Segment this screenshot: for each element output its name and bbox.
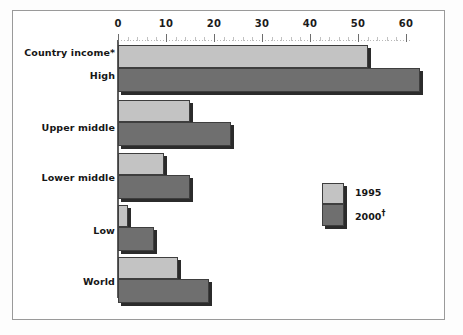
x-minor-tick xyxy=(195,37,196,41)
bar-lower-middle-1995 xyxy=(118,153,164,175)
dagger-marker: † xyxy=(381,209,385,218)
x-minor-tick xyxy=(291,37,292,41)
legend-swatch-1995 xyxy=(322,183,344,204)
x-minor-tick xyxy=(300,37,301,41)
x-minor-tick xyxy=(204,37,205,41)
bar-world-2000 xyxy=(118,279,209,303)
x-minor-tick xyxy=(233,37,234,41)
x-ticklabel-10: 10 xyxy=(159,18,173,29)
x-minor-tick xyxy=(329,37,330,41)
x-ticklabel-20: 20 xyxy=(207,18,221,29)
x-minor-tick xyxy=(176,37,177,41)
bar-high-2000 xyxy=(118,68,420,92)
plot-area: 0 10 20 30 40 50 60 xyxy=(0,0,463,335)
x-ticklabel-50: 50 xyxy=(351,18,365,29)
chart-figure: 0 10 20 30 40 50 60 xyxy=(0,0,463,335)
x-ticklabel-0: 0 xyxy=(114,18,121,29)
x-tick-40 xyxy=(310,34,311,42)
x-minor-tick xyxy=(281,37,282,41)
x-tick-0 xyxy=(118,34,119,42)
x-minor-tick xyxy=(128,37,129,41)
legend-label-2000: 2000† xyxy=(355,209,385,222)
y-category-label-lower-middle: Lower middle xyxy=(42,172,115,183)
x-minor-tick xyxy=(377,37,378,41)
x-minor-tick xyxy=(147,37,148,41)
bar-low-1995 xyxy=(118,205,128,227)
axis-group-header: Country income* xyxy=(24,47,115,58)
y-category-label-low: Low xyxy=(93,225,115,236)
y-category-label-world: World xyxy=(83,276,115,287)
x-minor-tick xyxy=(272,37,273,41)
bar-low-2000 xyxy=(118,227,154,251)
legend-swatch-2000 xyxy=(322,204,344,226)
x-tick-60 xyxy=(406,34,407,42)
bar-lower-middle-2000 xyxy=(118,175,190,199)
x-minor-tick xyxy=(339,37,340,41)
y-category-label-upper-middle: Upper middle xyxy=(42,122,115,133)
x-ticklabel-30: 30 xyxy=(255,18,269,29)
bar-high-1995 xyxy=(118,45,368,68)
x-minor-tick xyxy=(224,37,225,41)
x-minor-tick xyxy=(396,37,397,41)
x-tick-10 xyxy=(166,34,167,42)
x-axis-rule xyxy=(118,40,410,41)
x-minor-tick xyxy=(387,37,388,41)
bar-upper-middle-1995 xyxy=(118,100,190,122)
x-minor-tick xyxy=(137,37,138,41)
y-category-label-high: High xyxy=(90,70,115,81)
x-tick-20 xyxy=(214,34,215,42)
legend-label-1995: 1995 xyxy=(355,187,381,198)
x-minor-tick xyxy=(252,37,253,41)
x-minor-tick xyxy=(156,37,157,41)
x-ticklabel-60: 60 xyxy=(399,18,413,29)
x-minor-tick xyxy=(348,37,349,41)
x-tick-30 xyxy=(262,34,263,42)
x-minor-tick xyxy=(243,37,244,41)
bar-upper-middle-2000 xyxy=(118,122,231,146)
x-ticklabel-40: 40 xyxy=(303,18,317,29)
x-minor-tick xyxy=(320,37,321,41)
legend-label-2000-text: 2000 xyxy=(355,211,381,222)
x-minor-tick xyxy=(368,37,369,41)
x-minor-tick xyxy=(185,37,186,41)
x-tick-50 xyxy=(358,34,359,42)
bar-world-1995 xyxy=(118,257,178,279)
